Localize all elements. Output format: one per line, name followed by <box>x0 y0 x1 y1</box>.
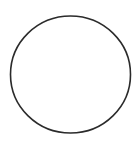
circle-outline <box>11 16 131 133</box>
canvas <box>0 0 140 141</box>
circle-graphic <box>0 0 140 141</box>
